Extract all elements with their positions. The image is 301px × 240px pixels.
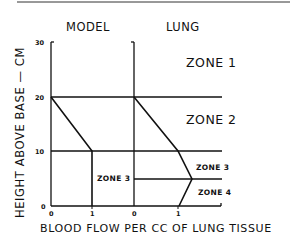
zone-2-label: ZONE 2: [186, 112, 237, 127]
zone-diagram: MODEL LUNG HEIGHT ABOVE BASE — CM 30 20 …: [0, 0, 301, 240]
zone-3-label: ZONE 3: [196, 163, 229, 172]
y-axis-label: HEIGHT ABOVE BASE — CM: [13, 47, 27, 218]
lung-x-tick-0: 0: [132, 210, 137, 218]
zone-1-label: ZONE 1: [186, 55, 237, 70]
y-tick-0: 0: [41, 203, 46, 211]
x-axis-label: BLOOD FLOW PER CC OF LUNG TISSUE: [40, 222, 272, 235]
model-x-tick-0: 0: [49, 210, 54, 218]
model-title: MODEL: [66, 20, 110, 34]
lung-x-tick-1: 1: [176, 210, 181, 218]
model-x-tick-1: 1: [90, 210, 95, 218]
model-zone-3-label: ZONE 3: [97, 174, 130, 183]
y-tick-20: 20: [35, 94, 45, 102]
y-tick-30: 30: [35, 39, 45, 47]
y-tick-10: 10: [35, 148, 45, 156]
zone-4-label: ZONE 4: [198, 188, 231, 197]
lung-title: LUNG: [166, 20, 200, 34]
